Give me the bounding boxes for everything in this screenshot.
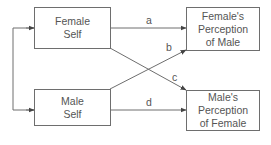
node-label-line: of Female — [198, 117, 248, 130]
node-female-self: Female Self — [34, 7, 111, 49]
diagram: Female Self Male Self Female's Perceptio… — [0, 0, 271, 145]
edge-label-c: c — [172, 71, 177, 83]
node-label-line: Male's — [198, 91, 248, 104]
node-label-line: Perception — [198, 104, 248, 117]
node-label-line: of Male — [198, 36, 248, 49]
node-label-line: Self — [61, 108, 84, 121]
edge-label-a: a — [146, 14, 152, 26]
node-male-perception-of-female: Male's Perception of Female — [186, 90, 260, 131]
bracket-connector — [13, 28, 34, 110]
node-label-line: Male — [61, 95, 84, 108]
node-label-line: Perception — [198, 23, 248, 36]
edge-label-d: d — [146, 96, 152, 108]
node-female-perception-of-male: Female's Perception of Male — [186, 7, 260, 51]
node-label-line: Female — [55, 15, 90, 28]
node-label-line: Female's — [198, 10, 248, 23]
edge-label-b: b — [166, 41, 172, 53]
node-label-line: Self — [55, 28, 90, 41]
node-male-self: Male Self — [34, 89, 111, 126]
